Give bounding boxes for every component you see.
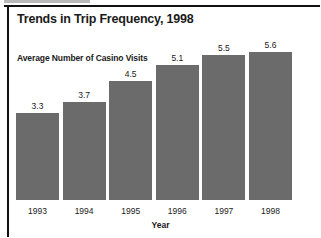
bar-group: 5.1 bbox=[156, 65, 199, 200]
bar bbox=[109, 81, 152, 200]
bar-value-label: 5.1 bbox=[156, 53, 199, 63]
bar-value-label: 4.5 bbox=[109, 69, 152, 79]
bar-value-label: 5.6 bbox=[249, 40, 292, 50]
bar-group: 4.5 bbox=[109, 81, 152, 200]
x-tick-label: 1994 bbox=[63, 206, 106, 216]
bar-group: 3.3 bbox=[16, 113, 59, 200]
bar bbox=[156, 65, 199, 200]
x-tick-label: 1995 bbox=[109, 206, 152, 216]
bar-value-label: 3.7 bbox=[63, 90, 106, 100]
bar bbox=[16, 113, 59, 200]
bar-value-label: 5.5 bbox=[202, 43, 245, 53]
bar bbox=[249, 52, 292, 200]
x-tick-label: 1993 bbox=[16, 206, 59, 216]
plot-area: 3.319933.719944.519955.119965.519975.619… bbox=[0, 0, 321, 238]
bar-group: 5.5 bbox=[202, 55, 245, 200]
bar-group: 5.6 bbox=[249, 52, 292, 200]
bar-value-label: 3.3 bbox=[16, 101, 59, 111]
x-tick-label: 1996 bbox=[156, 206, 199, 216]
bar bbox=[63, 102, 106, 200]
x-tick-label: 1997 bbox=[202, 206, 245, 216]
x-tick-label: 1998 bbox=[249, 206, 292, 216]
bar-group: 3.7 bbox=[63, 102, 106, 200]
x-axis-title: Year bbox=[0, 220, 321, 230]
bar bbox=[202, 55, 245, 200]
chart-figure: Trends in Trip Frequency, 1998 Average N… bbox=[0, 0, 321, 238]
